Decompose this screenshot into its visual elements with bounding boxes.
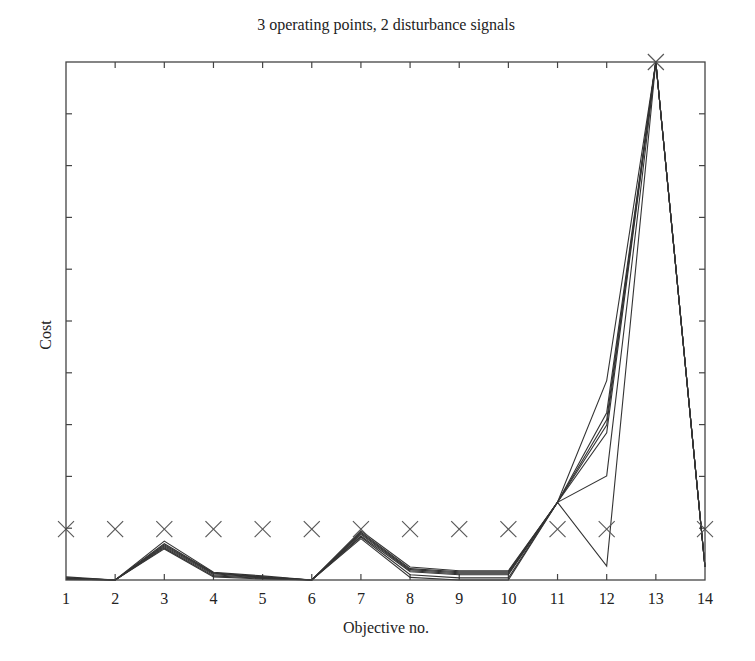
x-tick-label: 11 [550,590,565,607]
x-marker-icon [402,521,418,537]
series-line [66,62,705,580]
x-tick-label: 3 [160,590,168,607]
x-tick-label: 4 [209,590,217,607]
series-line [66,62,705,580]
x-tick-label: 2 [111,590,119,607]
x-marker-icon [599,521,615,537]
series-line [66,62,705,580]
x-tick-label: 5 [259,590,267,607]
x-tick-label: 7 [357,590,365,607]
x-marker-icon [156,521,172,537]
reference-markers [58,54,713,537]
y-axis-label: Cost [37,320,54,350]
chart: 3 operating points, 2 disturbance signal… [0,0,755,661]
x-tick-label: 8 [406,590,414,607]
x-marker-icon [451,521,467,537]
x-marker-icon [255,521,271,537]
series-lines [66,62,705,580]
series-line [66,62,705,580]
x-marker-icon [107,521,123,537]
series-line [66,62,705,580]
series-line [66,62,705,580]
plot-frame [66,62,705,580]
x-marker-icon [304,521,320,537]
x-marker-icon [500,521,516,537]
series-line [66,62,705,580]
x-tick-labels: 1234567891011121314 [62,590,713,607]
x-tick-label: 6 [308,590,316,607]
x-axis-label: Objective no. [343,619,429,637]
x-tick-label: 12 [599,590,615,607]
chart-title: 3 operating points, 2 disturbance signal… [257,16,515,34]
x-tick-label: 1 [62,590,70,607]
x-tick-label: 14 [697,590,713,607]
y-axis-ticks [66,114,705,528]
x-tick-label: 13 [648,590,664,607]
x-axis-ticks [115,62,656,580]
x-tick-label: 10 [500,590,516,607]
x-marker-icon [550,521,566,537]
x-marker-icon [205,521,221,537]
x-tick-label: 9 [455,590,463,607]
